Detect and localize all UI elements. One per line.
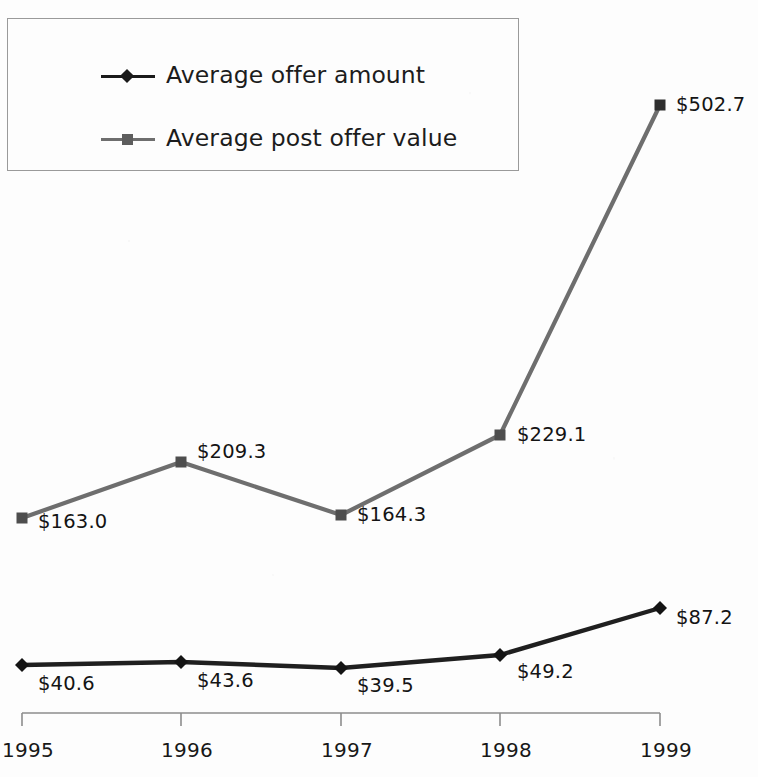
data-label-post-offer-1997: $164.3	[357, 505, 426, 525]
data-label-offer-1998: $49.2	[517, 662, 574, 682]
data-point-marker	[176, 457, 187, 468]
data-point-marker	[653, 601, 667, 615]
data-point-marker	[334, 661, 348, 675]
x-tick-label-1996: 1996	[161, 740, 213, 760]
x-tick-label-1999: 1999	[640, 740, 692, 760]
data-label-offer-1997: $39.5	[357, 676, 414, 696]
x-tick-label-1997: 1997	[321, 740, 373, 760]
data-label-offer-1996: $43.6	[197, 671, 254, 691]
data-point-marker	[493, 648, 507, 662]
data-label-post-offer-1998: $229.1	[517, 425, 586, 445]
data-label-offer-1995: $40.6	[38, 674, 95, 694]
data-point-marker	[495, 430, 506, 441]
series-average-post-offer-value	[17, 100, 666, 524]
x-axis	[22, 713, 660, 726]
data-point-marker	[15, 658, 29, 672]
data-label-post-offer-1995: $163.0	[38, 512, 107, 532]
data-label-post-offer-1999: $502.7	[676, 95, 745, 115]
data-label-post-offer-1996: $209.3	[197, 442, 266, 462]
chart-plot-area	[0, 0, 758, 777]
data-point-marker	[17, 513, 28, 524]
x-tick-label-1995: 1995	[2, 740, 54, 760]
data-point-marker	[336, 510, 347, 521]
x-tick-label-1998: 1998	[480, 740, 532, 760]
data-point-marker	[174, 655, 188, 669]
data-point-marker	[655, 100, 666, 111]
data-label-offer-1999: $87.2	[676, 608, 733, 628]
chart-page: Average offer amount Average post offer …	[0, 0, 758, 777]
